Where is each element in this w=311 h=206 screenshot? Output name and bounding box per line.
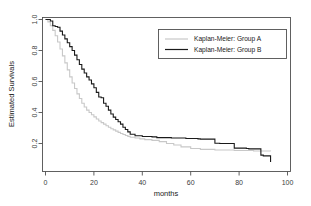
y-tick-label: 0.4 [31,108,38,118]
legend-label-group-a: Kaplan-Meier: Group A [194,35,262,43]
x-tick-label: 60 [187,179,195,186]
legend-label-group-b: Kaplan-Meier: Group B [194,46,262,54]
x-axis-title: months [154,189,179,198]
x-tick-label: 0 [44,179,48,186]
kaplan-meier-figure: 020406080100 0.20.40.60.81.0 months Esti… [0,0,311,206]
x-tick-label: 80 [235,179,243,186]
x-tick-label: 20 [90,179,98,186]
legend: Kaplan-Meier: Group A Kaplan-Meier: Grou… [159,30,287,59]
y-tick-label: 0.6 [31,77,38,87]
y-tick-label: 0.8 [31,46,38,56]
x-tick-label: 40 [138,179,146,186]
survival-plot: 020406080100 0.20.40.60.81.0 months Esti… [0,0,311,206]
y-tick-label: 1.0 [31,15,38,25]
y-tick-label: 0.2 [31,139,38,149]
x-tick-label: 100 [282,179,294,186]
y-axis-title: Estimated Survivals [7,61,16,127]
legend-box [159,30,287,59]
